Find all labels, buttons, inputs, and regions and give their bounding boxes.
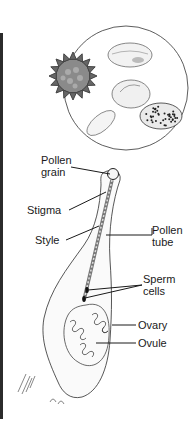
spike xyxy=(70,93,77,100)
pollen-inset xyxy=(49,26,188,150)
speckle xyxy=(164,113,166,115)
speckle xyxy=(146,119,148,121)
label-pollen-grain: Pollen grain xyxy=(41,154,72,178)
speckle xyxy=(158,114,160,116)
speckle xyxy=(152,116,154,118)
speckle xyxy=(164,118,166,120)
speckle xyxy=(172,110,174,112)
speckle xyxy=(155,120,157,122)
label-stigma: Stigma xyxy=(27,204,61,216)
speckle xyxy=(173,114,175,116)
speckle xyxy=(154,108,156,110)
speckle xyxy=(152,121,154,123)
speckle xyxy=(151,119,153,121)
leader-pollen-grain xyxy=(71,167,110,174)
speckle xyxy=(154,111,156,113)
speckle xyxy=(174,117,176,119)
elongated-pollen-grain-icon xyxy=(83,106,119,140)
speckle xyxy=(160,122,162,124)
speckle xyxy=(164,124,166,126)
spiky-pollen-grain-icon xyxy=(49,52,97,100)
label-ovule: Ovule xyxy=(138,337,167,349)
speckle xyxy=(172,118,174,120)
label-style: Style xyxy=(35,234,59,246)
speckle xyxy=(150,116,152,118)
speckle xyxy=(152,111,154,113)
speckle xyxy=(169,114,171,116)
speckle xyxy=(174,121,176,123)
spike xyxy=(70,52,77,59)
spike xyxy=(49,73,56,80)
oval-pollen-grain-top-icon xyxy=(108,43,152,67)
speckle xyxy=(168,118,170,120)
speckled-pollen-grain-icon xyxy=(140,103,182,129)
speckle xyxy=(152,107,154,109)
label-sperm-cells: Sperm cells xyxy=(143,273,175,297)
oval-pollen-grain-middle-icon xyxy=(112,80,150,108)
label-ovary: Ovary xyxy=(138,319,167,331)
speckle xyxy=(170,121,172,123)
speckle xyxy=(176,117,178,119)
speckle xyxy=(156,110,158,112)
speckle xyxy=(145,113,147,115)
spike xyxy=(90,73,97,80)
label-pollen-tube: Pollen tube xyxy=(152,224,183,248)
speckle xyxy=(157,106,159,108)
speckle xyxy=(162,119,164,121)
